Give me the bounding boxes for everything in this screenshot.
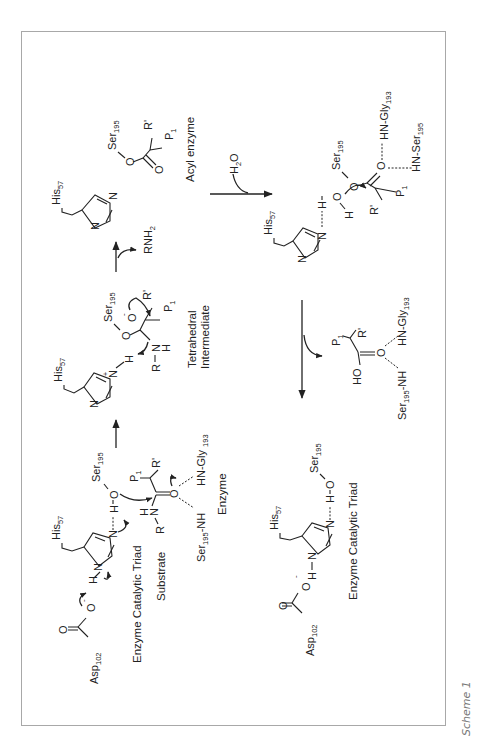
- svg-text:N: N: [316, 232, 328, 240]
- r-prime: R': [142, 120, 154, 130]
- his57-label: His57: [52, 358, 67, 382]
- svg-text:N: N: [88, 400, 100, 408]
- acid-product: P1 R' HO O HN-Gly193 Ser195-NH: [330, 297, 411, 420]
- water-o: O: [331, 192, 343, 201]
- hn-ser195: HN-Ser195: [410, 123, 425, 172]
- asp102-label: Asp102: [304, 625, 319, 656]
- svg-text:P1: P1: [330, 334, 345, 346]
- ring-n: N: [89, 222, 101, 230]
- his57-label: His57: [50, 516, 65, 540]
- svg-text:H: H: [123, 355, 135, 363]
- svg-text:O: O: [108, 490, 120, 499]
- svg-text:O: O: [300, 582, 312, 591]
- svg-text:-: -: [291, 575, 300, 578]
- svg-text:N: N: [107, 530, 119, 538]
- triad-label-1: Enzyme Catalytic Triad: [131, 545, 143, 663]
- intermediate-label: Intermediate: [199, 305, 211, 369]
- svg-text:R': R': [141, 290, 153, 300]
- svg-text:R': R': [356, 328, 368, 338]
- his57-label: His57: [268, 506, 283, 530]
- scheme-caption: Scheme 1: [460, 681, 473, 736]
- rnh2-label: RNH2: [142, 226, 157, 254]
- svg-text:H: H: [108, 505, 120, 513]
- asp102-label: Asp102: [88, 653, 103, 684]
- svg-text:O: O: [85, 603, 97, 612]
- hydrolysis-intermediate: His57 N N H O H Ser195 O O HN-Gly193 HN-…: [262, 91, 425, 263]
- enzyme-label: Enzyme: [216, 473, 228, 515]
- svg-text:O: O: [324, 480, 336, 489]
- svg-text:N: N: [296, 255, 308, 263]
- svg-text:P1: P1: [128, 470, 143, 482]
- svg-text:O: O: [348, 182, 360, 191]
- regenerated-triad: Asp102 O O - His57 N N H H O Ser195 Enzy…: [268, 443, 359, 656]
- ser195-label: Ser195: [102, 292, 117, 322]
- substrate-label: Substrate: [155, 552, 167, 601]
- svg-text:O: O: [57, 625, 69, 634]
- carbonyl-o: O: [375, 161, 387, 170]
- svg-text:P1: P1: [162, 300, 177, 312]
- ser195-label: Ser195: [330, 140, 345, 170]
- p1: P1: [163, 128, 178, 140]
- his57-label: His57: [262, 211, 277, 235]
- acyl-enzyme: His57 N N Ser195 O O R' P1 Acyl enzyme: [50, 117, 196, 230]
- svg-text:R: R: [150, 364, 162, 372]
- svg-text:HO: HO: [351, 368, 363, 385]
- svg-text:R: R: [154, 526, 166, 534]
- svg-text:O: O: [277, 601, 289, 610]
- svg-text:-: -: [119, 313, 128, 316]
- h2o-step: H2O: [210, 153, 272, 194]
- svg-text:O: O: [168, 489, 180, 498]
- svg-text:O: O: [120, 331, 132, 340]
- hn-gly193: HN-Gly193: [396, 297, 411, 346]
- hn-gly193: HN-Gly193: [378, 91, 393, 140]
- svg-text:R': R': [150, 458, 162, 468]
- ring-n: N: [107, 192, 119, 200]
- reaction-scheme: Scheme 1 His57 N N Ser195 O O R' P1 Acyl…: [0, 0, 479, 744]
- ser195-label: Ser195: [308, 443, 323, 473]
- svg-text:H: H: [324, 495, 336, 503]
- svg-text:H: H: [316, 201, 328, 209]
- svg-text:N: N: [92, 563, 104, 571]
- svg-text:H: H: [160, 344, 172, 352]
- svg-text:H: H: [343, 211, 355, 219]
- svg-text:N: N: [148, 508, 160, 516]
- ser195-label: Ser195: [106, 120, 121, 150]
- ser195-label: Ser195: [90, 452, 105, 482]
- carbonyl-o: O: [153, 165, 165, 174]
- his57-label: His57: [50, 181, 65, 205]
- svg-text:H: H: [306, 572, 318, 580]
- svg-text:O: O: [375, 348, 387, 357]
- rnh2-step: RNH2: [116, 226, 157, 272]
- ser195-nh: Ser195-NH: [195, 513, 210, 562]
- enzyme-substrate-complex: Asp102 O O - H His57 N N H O Ser195 P1 R…: [50, 434, 228, 684]
- svg-text:+: +: [102, 372, 109, 376]
- svg-text:R': R': [368, 205, 380, 215]
- tetrahedral-label: Tetrahedral: [186, 310, 198, 368]
- svg-text:N: N: [306, 552, 318, 560]
- acyl-enzyme-label: Acyl enzyme: [184, 117, 196, 182]
- svg-text:N: N: [324, 520, 336, 528]
- hn-gly193: HN-Gly 193: [195, 434, 210, 486]
- ser195-nh: Ser195-NH: [396, 371, 411, 420]
- svg-text:P1: P1: [394, 185, 409, 197]
- triad-label-2: Enzyme Catalytic Triad: [347, 482, 359, 600]
- h2o-label: H2O: [228, 153, 243, 174]
- release-step: [302, 300, 322, 398]
- svg-text:H: H: [87, 576, 99, 584]
- tetrahedral-intermediate: His57 N + N H Ser195 O O - R' P1 N H R T…: [52, 290, 211, 408]
